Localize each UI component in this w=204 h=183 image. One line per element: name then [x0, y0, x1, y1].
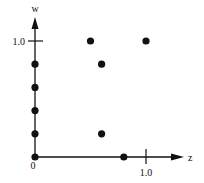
scatter-chart: w z 1.0 1.0 0 — [0, 0, 204, 183]
data-point — [142, 37, 149, 44]
data-points — [31, 37, 149, 160]
z-tick-label: 1.0 — [140, 167, 153, 178]
data-point — [31, 84, 38, 91]
data-point — [31, 153, 38, 160]
data-point — [31, 61, 38, 68]
w-axis-arrow-icon — [32, 17, 39, 29]
data-point — [31, 130, 38, 137]
data-point — [98, 130, 105, 137]
w-axis-label: w — [31, 3, 39, 14]
z-axis-label: z — [188, 152, 193, 163]
origin-label: 0 — [31, 160, 36, 171]
data-point — [31, 107, 38, 114]
data-point — [87, 37, 94, 44]
z-axis-arrow-icon — [171, 154, 184, 161]
w-tick-label: 1.0 — [13, 36, 26, 47]
data-point — [120, 153, 127, 160]
data-point — [98, 61, 105, 68]
